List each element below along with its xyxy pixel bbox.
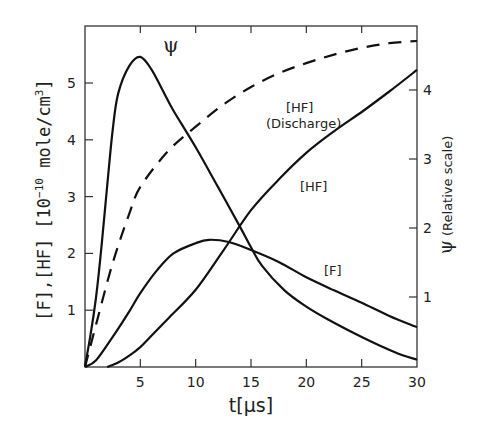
y-tick-label: 2 [67, 245, 76, 261]
hf-discharge-label-line2: (Discharge) [266, 116, 341, 131]
y-axis-title-unit: mole/cm [34, 96, 54, 178]
hf-curve-label: [HF] [300, 179, 327, 194]
hf-discharge-label-line1: [HF] [286, 100, 313, 115]
y2-tick-label: 4 [423, 82, 432, 98]
psi-curve-label: ψ [163, 33, 179, 57]
y2-tick-label: 1 [423, 289, 432, 305]
y-axis-title-main: [F],[HF] [10 [34, 198, 54, 321]
x-axis-title: t[μs] [229, 394, 273, 416]
x-tick-label: 15 [242, 374, 260, 390]
x-tick-label: 25 [353, 374, 371, 390]
chart: 51015202530123451234 ψ [HF] (Discharge) … [0, 0, 483, 441]
y2-axis-title-text: (Relative scale) [440, 136, 455, 240]
f-curve-label: [F] [324, 263, 342, 278]
x-tick-label: 5 [136, 374, 145, 390]
y-tick-label: 3 [67, 189, 76, 205]
y-axis-title-exponent: −10 [33, 178, 46, 198]
curves [85, 41, 417, 367]
y2-axis-title-symbol: ψ [435, 240, 456, 254]
y-tick-label: 4 [67, 132, 76, 148]
x-tick-label: 10 [187, 374, 205, 390]
y-axis-title: [F],[HF] [10−10 mole/cm3] [33, 79, 54, 320]
y-axis-title-close: ] [34, 79, 54, 89]
x-tick-label: 30 [408, 374, 426, 390]
curve-f [85, 240, 417, 367]
curve-hf [107, 70, 417, 367]
y2-tick-label: 3 [423, 151, 432, 167]
y-tick-label: 1 [67, 302, 76, 318]
x-tick-label: 20 [297, 374, 315, 390]
y2-tick-label: 2 [423, 220, 432, 236]
y-axis-title-unit-exponent: 3 [33, 90, 46, 97]
y-tick-label: 5 [67, 75, 76, 91]
y2-axis-title: ψ (Relative scale) [435, 136, 456, 254]
curve-hf-discharge [85, 41, 417, 367]
